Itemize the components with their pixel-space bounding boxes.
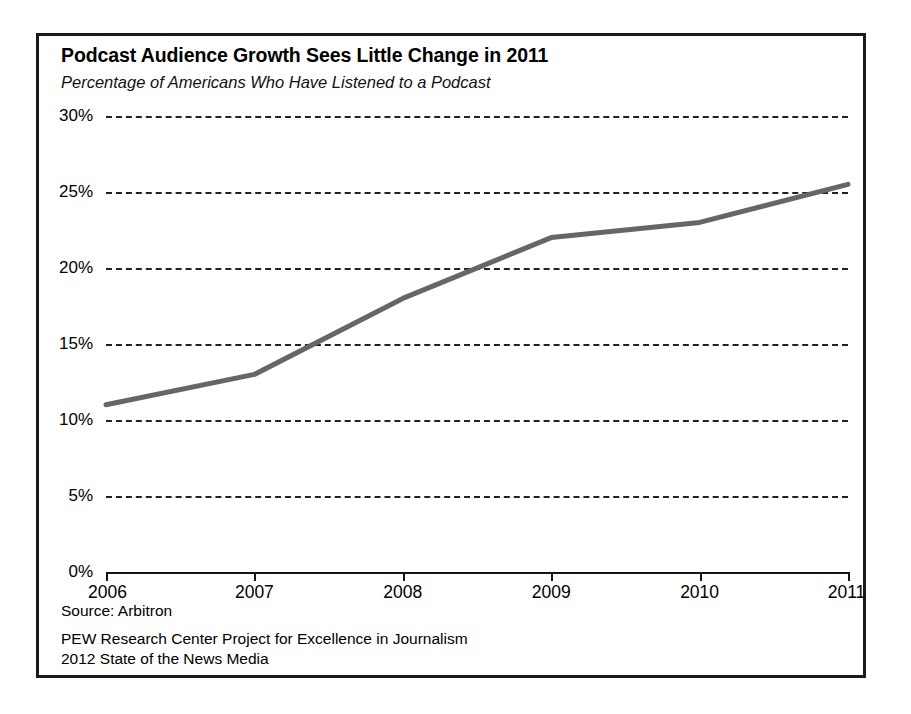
chart-subtitle: Percentage of Americans Who Have Listene… bbox=[61, 73, 491, 92]
y-axis-label-15%: 15% bbox=[59, 334, 93, 354]
x-axis-label-2011: 2011 bbox=[828, 582, 866, 603]
screenshot-page: Podcast Audience Growth Sees Little Chan… bbox=[0, 0, 911, 714]
x-axis-tick-2007 bbox=[254, 572, 256, 581]
x-axis-label-2009: 2009 bbox=[532, 582, 571, 603]
y-axis-label-25%: 25% bbox=[59, 182, 93, 202]
x-axis-label-2006: 2006 bbox=[88, 582, 127, 603]
chart-footer: Source: Arbitron PEW Research Center Pro… bbox=[61, 602, 821, 668]
y-axis-label-0%: 0% bbox=[68, 562, 93, 582]
x-axis-tick-2008 bbox=[403, 572, 405, 581]
podcast-listenership-line bbox=[106, 184, 848, 404]
x-axis-tick-2006 bbox=[106, 572, 108, 581]
y-axis-label-20%: 20% bbox=[59, 258, 93, 278]
chart-figure-frame: Podcast Audience Growth Sees Little Chan… bbox=[36, 33, 866, 678]
x-axis-label-2007: 2007 bbox=[235, 582, 274, 603]
x-axis-label-2010: 2010 bbox=[680, 582, 719, 603]
x-axis-label-2008: 2008 bbox=[383, 582, 422, 603]
x-axis-tick-2010 bbox=[700, 572, 702, 581]
chart-title: Podcast Audience Growth Sees Little Chan… bbox=[61, 44, 548, 67]
data-series-layer bbox=[106, 116, 848, 572]
x-axis-tick-2011 bbox=[848, 572, 850, 581]
y-axis-label-5%: 5% bbox=[68, 486, 93, 506]
x-axis-line bbox=[106, 572, 848, 574]
footer-organization: PEW Research Center Project for Excellen… bbox=[61, 630, 821, 648]
plot-area: 0%5%10%15%20%25%30% 20062007200820092010… bbox=[106, 116, 848, 572]
y-axis-label-30%: 30% bbox=[59, 106, 93, 126]
footer-source: Source: Arbitron bbox=[61, 602, 821, 620]
footer-publication: 2012 State of the News Media bbox=[61, 650, 821, 668]
y-axis-label-10%: 10% bbox=[59, 410, 93, 430]
x-axis-tick-2009 bbox=[551, 572, 553, 581]
